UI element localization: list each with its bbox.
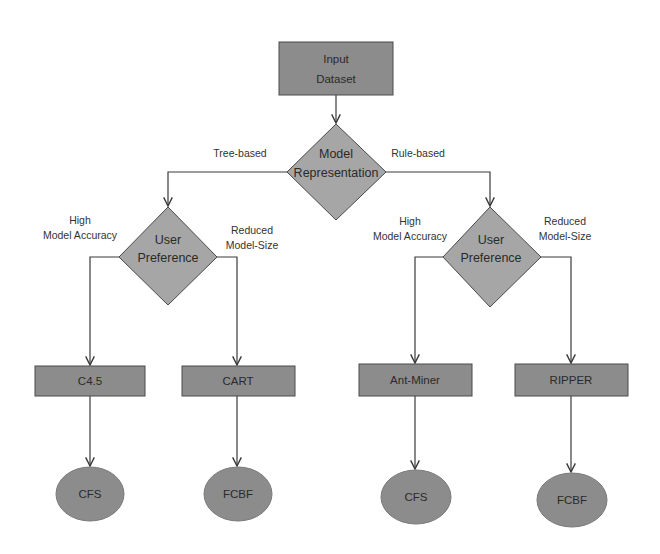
pref-right-line1: User bbox=[478, 233, 504, 247]
node-user-preference-right: User Preference bbox=[443, 207, 541, 307]
label-right-high-line1: High bbox=[399, 215, 421, 227]
label-left-reduced-line2: Model-Size bbox=[226, 239, 279, 251]
node-cart: CART bbox=[182, 366, 295, 396]
cfs-right-label: CFS bbox=[405, 491, 428, 503]
node-c45: C4.5 bbox=[35, 366, 145, 396]
ripper-label: RIPPER bbox=[550, 374, 593, 386]
edge-pref-left-to-cart bbox=[217, 257, 237, 365]
edge-model-rep-to-pref-left bbox=[168, 172, 287, 206]
label-right-reduced-line1: Reduced bbox=[544, 215, 586, 227]
input-dataset-line2: Dataset bbox=[316, 73, 356, 85]
antminer-label: Ant-Miner bbox=[390, 374, 440, 386]
model-rep-line2: Representation bbox=[294, 166, 379, 180]
label-right-reduced-line2: Model-Size bbox=[539, 230, 592, 242]
label-left-high-line2: Model Accuracy bbox=[43, 229, 118, 241]
pref-right-line2: Preference bbox=[460, 251, 521, 265]
edge-pref-right-to-ripper bbox=[541, 257, 571, 363]
node-cfs-right: CFS bbox=[381, 470, 451, 524]
model-rep-line1: Model bbox=[319, 147, 353, 161]
edge-pref-right-to-antminer bbox=[415, 257, 443, 363]
node-ant-miner: Ant-Miner bbox=[359, 364, 472, 396]
fcbf-left-label: FCBF bbox=[223, 488, 253, 500]
node-ripper: RIPPER bbox=[515, 364, 628, 396]
flowchart-canvas: Tree-based Rule-based High Model Accurac… bbox=[0, 0, 660, 554]
label-left-high-line1: High bbox=[69, 214, 91, 226]
label-tree-based: Tree-based bbox=[213, 147, 266, 159]
pref-left-line2: Preference bbox=[137, 251, 198, 265]
node-cfs-left: CFS bbox=[56, 467, 124, 521]
cart-label: CART bbox=[222, 375, 253, 387]
label-left-reduced-line1: Reduced bbox=[231, 224, 273, 236]
label-rule-based: Rule-based bbox=[391, 147, 445, 159]
node-input-dataset: Input Dataset bbox=[279, 42, 393, 95]
pref-left-line1: User bbox=[155, 233, 181, 247]
edge-pref-left-to-c45 bbox=[90, 257, 119, 365]
node-fcbf-right: FCBF bbox=[537, 473, 607, 527]
input-dataset-line1: Input bbox=[323, 53, 349, 65]
fcbf-right-label: FCBF bbox=[557, 494, 587, 506]
node-user-preference-left: User Preference bbox=[119, 207, 217, 305]
label-right-high-line2: Model Accuracy bbox=[373, 230, 448, 242]
edge-model-rep-to-pref-right bbox=[386, 172, 490, 206]
node-model-representation: Model Representation bbox=[287, 124, 386, 220]
c45-label: C4.5 bbox=[78, 375, 102, 387]
cfs-left-label: CFS bbox=[79, 488, 102, 500]
node-fcbf-left: FCBF bbox=[204, 467, 272, 521]
